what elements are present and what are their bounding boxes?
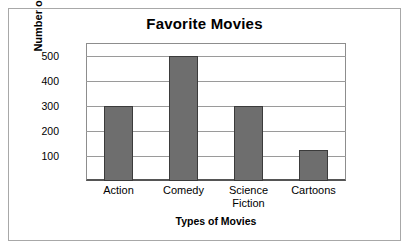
gridline [86, 81, 346, 82]
y-tick-label: 200 [19, 126, 59, 136]
y-tick-label: 300 [19, 101, 59, 111]
x-tick-label: Cartoons [281, 184, 346, 197]
chart-title: Favorite Movies [9, 15, 400, 32]
x-tick-label: Comedy [151, 184, 216, 197]
y-tick-label: 100 [19, 151, 59, 161]
bar [299, 150, 328, 181]
y-tick-label: 400 [19, 76, 59, 86]
x-tick-label: ScienceFiction [216, 184, 281, 209]
bar [234, 106, 263, 181]
bar [169, 56, 198, 181]
gridline [86, 56, 346, 57]
y-tick-label: 500 [19, 51, 59, 61]
bar [104, 106, 133, 181]
x-tick-label: Action [86, 184, 151, 197]
x-axis-title: Types of Movies [86, 215, 346, 227]
chart-figure: Favorite Movies Number of Votes 10020030… [8, 8, 401, 241]
